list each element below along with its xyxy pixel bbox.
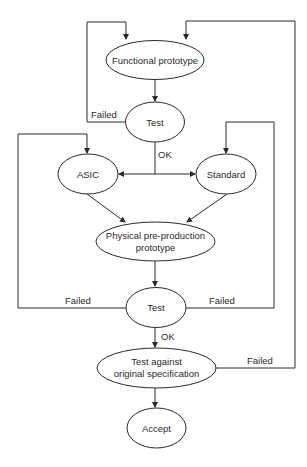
node-test-2: Test — [126, 288, 186, 328]
svg-text:Physical pre-production: Physical pre-production — [106, 230, 205, 241]
node-asic: ASIC — [58, 154, 118, 194]
edge-test2-failed-right-loop — [186, 122, 274, 308]
node-standard: Standard — [196, 154, 256, 194]
node-physical-pre-production-prototype: Physical pre-production prototype — [96, 222, 215, 261]
node-accept: Accept — [127, 408, 186, 448]
edge-asic-to-physical — [87, 194, 125, 222]
svg-text:original specification: original specification — [114, 368, 200, 379]
node-functional-prototype: Functional prototype — [106, 41, 204, 80]
svg-text:ASIC: ASIC — [77, 169, 99, 180]
svg-text:Test: Test — [146, 117, 164, 128]
label-test1-failed: Failed — [91, 109, 117, 120]
svg-text:Functional prototype: Functional prototype — [112, 55, 198, 66]
svg-text:Accept: Accept — [142, 423, 171, 434]
svg-text:Standard: Standard — [207, 169, 246, 180]
svg-text:Test: Test — [147, 302, 165, 313]
edge-standard-to-physical — [187, 194, 227, 222]
label-test2-failed-left: Failed — [65, 295, 91, 306]
flowchart: Functional prototype Test ASIC Standard … — [0, 0, 307, 467]
svg-text:Test against: Test against — [131, 356, 182, 367]
svg-text:prototype: prototype — [136, 242, 176, 253]
node-test-1: Test — [126, 102, 185, 142]
label-spec-failed: Failed — [247, 355, 273, 366]
label-test2-failed-right: Failed — [209, 295, 235, 306]
label-test1-ok: OK — [158, 149, 172, 160]
edge-spec-failed-loop — [186, 21, 295, 368]
node-test-against-spec: Test against original specification — [97, 348, 216, 388]
label-test2-ok: OK — [161, 331, 175, 342]
